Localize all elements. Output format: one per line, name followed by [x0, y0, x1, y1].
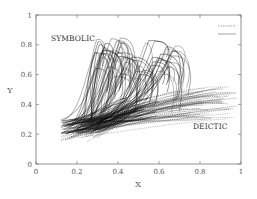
x-tick-label: 0.2 — [71, 168, 82, 176]
y-tick-label: 0.6 — [21, 71, 33, 79]
y-tick-label: 0.2 — [21, 131, 32, 139]
x-tick-label: 1 — [239, 168, 243, 176]
x-tick-label: 0.4 — [112, 168, 124, 176]
legend — [218, 26, 236, 34]
x-axis-label: X — [135, 180, 141, 189]
y-tick-label: 0 — [28, 161, 32, 169]
annotation-deictic: DEICTIC — [193, 122, 228, 131]
x-tick-label: 0.6 — [153, 168, 165, 176]
y-tick-label: 0.4 — [21, 101, 33, 109]
y-axis-label: Y — [6, 86, 13, 95]
annotation-symbolic: SYMBOLIC — [51, 34, 95, 43]
trajectory-chart: 00.20.40.60.8100.20.40.60.81 X Y SYMBOLI… — [0, 0, 257, 199]
y-tick-label: 1 — [28, 12, 32, 20]
x-tick-label: 0 — [34, 168, 38, 176]
x-tick-label: 0.8 — [194, 168, 205, 176]
y-tick-label: 0.8 — [21, 41, 32, 49]
